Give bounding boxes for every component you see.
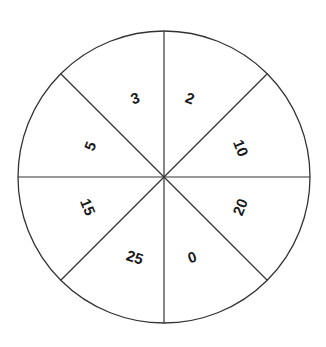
segment-dividers	[18, 31, 310, 323]
spinner-wheel: 2 10 20 0 25 15 5 3	[0, 0, 326, 347]
